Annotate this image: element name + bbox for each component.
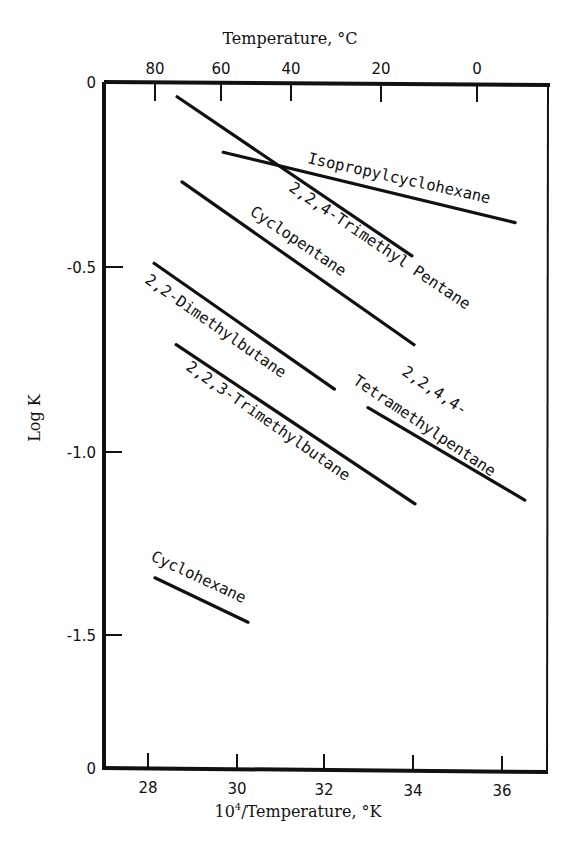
top-tick-labels: 80 60 40 20 0 xyxy=(145,60,481,78)
y-tick-labels: 0 -0.5 -1.0 -1.5 0 xyxy=(67,74,96,778)
series-label-22-dimethylbutane: 2,2-Dimethylbutane xyxy=(142,271,290,382)
top-tick-label: 40 xyxy=(281,60,300,78)
series-line-2-2-4-4-tetramethylpentane xyxy=(368,408,525,501)
x-axis-title: 104/Temperature, °K xyxy=(214,801,382,821)
plot-frame xyxy=(102,82,550,772)
x-tick-label: 36 xyxy=(492,782,511,800)
top-ticks xyxy=(155,84,477,102)
y-tick-label: -1.0 xyxy=(67,444,96,462)
top-tick-label: 20 xyxy=(371,60,390,78)
x-tick-label: 32 xyxy=(314,781,333,799)
y-tick-label: -1.5 xyxy=(67,627,96,645)
top-axis-title: Temperature, °C xyxy=(222,29,357,48)
x-tick-label: 34 xyxy=(403,782,422,800)
y-tick-label: -0.5 xyxy=(67,259,96,277)
series-line-2-2-dimethylbutane xyxy=(154,263,334,389)
top-tick-label: 60 xyxy=(211,60,230,78)
top-tick-label: 0 xyxy=(472,60,482,78)
top-tick-label: 80 xyxy=(145,60,164,78)
y-tick-label: 0 xyxy=(86,74,96,92)
series-lines xyxy=(154,97,525,622)
chart: Temperature, °C 80 60 40 20 0 0 xyxy=(0,0,578,848)
series-label-223-trimethylbutane: 2,2,3-Trimethylbutane xyxy=(183,358,354,485)
y-bottom-label: 0 xyxy=(86,760,96,778)
y-axis-title: Log K xyxy=(25,393,44,442)
x-tick-label: 28 xyxy=(138,779,157,797)
x-tick-label: 30 xyxy=(227,780,246,798)
x-tick-labels: 28 30 32 34 36 xyxy=(138,779,511,800)
left-ticks xyxy=(104,267,123,635)
series-line-2-2-3-trimethylbutane xyxy=(176,345,415,504)
